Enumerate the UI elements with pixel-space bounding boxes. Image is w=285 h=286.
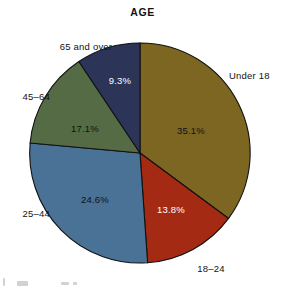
pie-value-label-25-44: 24.6% [81,194,109,205]
pie-chart-figure: AGE 35.1% 13.8% 24.6% 17.1% 9.3% Under 1… [0,0,285,286]
pie-category-label-18-24: 18–24 [197,263,224,274]
pie-value-label-under-18: 35.1% [177,125,205,136]
pie-category-label-65-and-over: 65 and over [60,41,112,52]
pie-category-label-45-64: 45–64 [23,91,50,102]
pie-category-label-under-18: Under 18 [229,70,270,81]
pie-category-label-25-44: 25–44 [23,208,50,219]
pie-value-label-18-24: 13.8% [157,204,185,215]
pie-chart-canvas [0,0,285,286]
pie-value-label-65-and-over: 9.3% [109,75,131,86]
pie-value-label-45-64: 17.1% [71,123,99,134]
